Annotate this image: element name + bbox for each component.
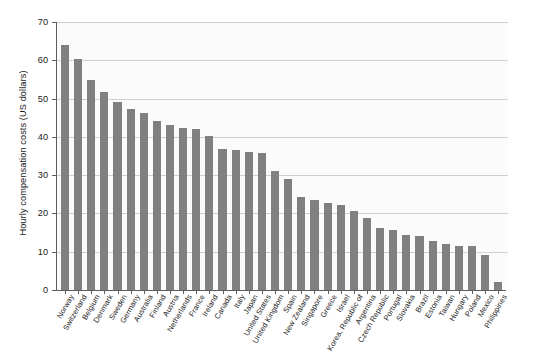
x-tick-mark [249, 291, 250, 294]
x-tick-label: Spain [281, 293, 299, 315]
bar [218, 149, 226, 290]
bar [153, 121, 161, 290]
y-tick-label: 30 [0, 170, 48, 180]
y-tick-mark [52, 252, 56, 253]
x-tick-label: Brazil [413, 293, 430, 314]
x-tick-mark [433, 291, 434, 294]
gridline [57, 175, 508, 176]
x-tick-mark [485, 291, 486, 294]
x-tick-label: United Kingdom [251, 293, 286, 345]
x-tick-mark [301, 291, 302, 294]
x-tick-mark [170, 291, 171, 294]
bar-chart-figure: Hourly compensation costs (US dollars) 0… [0, 0, 533, 359]
x-tick-mark [446, 291, 447, 294]
x-tick-label: Poland [463, 293, 483, 318]
x-tick-label: Sweden [107, 293, 129, 322]
x-tick-mark [262, 291, 263, 294]
bar [429, 241, 437, 290]
x-tick-label: United States [242, 293, 273, 338]
x-tick-label: Canada [212, 293, 233, 321]
x-tick-mark [223, 291, 224, 294]
y-tick-mark [52, 213, 56, 214]
bar [389, 230, 397, 290]
bar [258, 153, 266, 290]
x-tick-label: Switzerland [61, 293, 89, 332]
bar [100, 92, 108, 290]
x-tick-label: Australia [132, 293, 155, 323]
x-tick-mark [498, 291, 499, 294]
x-tick-label: Argentina [354, 293, 378, 326]
bar [205, 136, 213, 290]
y-tick-mark [52, 290, 56, 291]
x-tick-mark [288, 291, 289, 294]
x-tick-label: Germany [118, 293, 142, 325]
x-tick-label: Belgium [80, 293, 102, 322]
bar [376, 228, 384, 290]
y-tick-mark [52, 99, 56, 100]
x-tick-label: Singapore [300, 293, 325, 328]
x-tick-label: New Zealand [282, 293, 312, 337]
bar [74, 59, 82, 290]
x-tick-mark [328, 291, 329, 294]
gridline [57, 137, 508, 138]
gridline [57, 60, 508, 61]
y-tick-label: 0 [0, 285, 48, 295]
x-tick-mark [65, 291, 66, 294]
x-tick-mark [380, 291, 381, 294]
bar [350, 211, 358, 290]
y-axis-tick-labels: 010203040506070 [0, 0, 48, 359]
bar [61, 45, 69, 290]
y-tick-mark [52, 60, 56, 61]
bar [310, 200, 318, 290]
x-tick-mark [209, 291, 210, 294]
bar [284, 179, 292, 290]
x-tick-mark [406, 291, 407, 294]
x-tick-label: Philippines [483, 293, 509, 330]
y-tick-mark [52, 175, 56, 176]
x-tick-mark [341, 291, 342, 294]
y-tick-label: 20 [0, 208, 48, 218]
x-tick-mark [91, 291, 92, 294]
y-tick-label: 60 [0, 55, 48, 65]
x-tick-label: Estonia [423, 293, 444, 320]
bar [140, 113, 148, 290]
x-tick-mark [275, 291, 276, 294]
x-tick-mark [118, 291, 119, 294]
x-tick-mark [393, 291, 394, 294]
y-tick-mark [52, 22, 56, 23]
x-tick-mark [367, 291, 368, 294]
x-tick-mark [459, 291, 460, 294]
x-axis-line [56, 290, 506, 291]
bar [468, 246, 476, 290]
x-tick-label: Hungary [447, 293, 469, 323]
bar [363, 218, 371, 290]
x-tick-label: Norway [55, 293, 76, 320]
y-tick-label: 10 [0, 247, 48, 257]
x-tick-mark [314, 291, 315, 294]
x-tick-mark [78, 291, 79, 294]
bar [179, 128, 187, 290]
x-tick-label: Finland [147, 293, 167, 319]
bar [442, 244, 450, 290]
x-tick-label: Portugal [382, 293, 404, 322]
bar [324, 203, 332, 290]
x-tick-label: Slovakia [395, 293, 417, 323]
x-tick-mark [183, 291, 184, 294]
x-tick-label: Taiwan [437, 293, 457, 318]
gridline [57, 99, 508, 100]
bar [402, 235, 410, 290]
bar [455, 246, 463, 290]
bar [271, 171, 279, 290]
bar [87, 80, 95, 290]
plot-area [57, 22, 508, 290]
x-tick-label: Czech Republic [356, 293, 391, 344]
x-tick-label: Mexico [476, 293, 496, 319]
y-tick-label: 50 [0, 94, 48, 104]
x-tick-mark [236, 291, 237, 294]
x-tick-mark [131, 291, 132, 294]
x-tick-mark [420, 291, 421, 294]
x-tick-mark [354, 291, 355, 294]
x-tick-mark [196, 291, 197, 294]
bar [192, 129, 200, 290]
y-tick-label: 40 [0, 132, 48, 142]
